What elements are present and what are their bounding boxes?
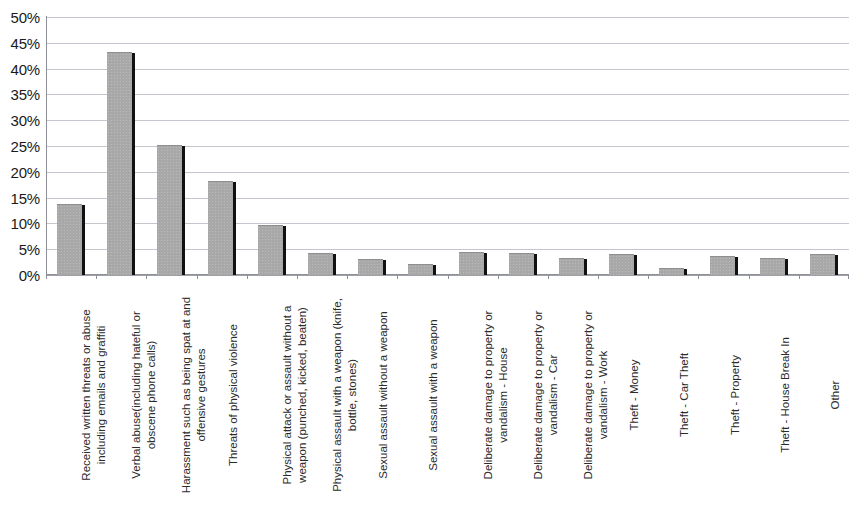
y-tick-label: 5% — [19, 241, 40, 258]
bar — [408, 264, 433, 275]
x-axis-label: Received written threats or abuseincludi… — [79, 279, 109, 511]
x-axis-label-line: vandalism - House — [496, 279, 511, 511]
y-tick-label: 40% — [11, 60, 40, 77]
x-axis-label-line: obscene phone calls) — [144, 279, 159, 511]
x-axis-label-line: Deliberate damage to property or — [531, 279, 546, 511]
x-axis-label: Deliberate damage to property orvandalis… — [481, 279, 511, 511]
plot-area — [46, 17, 849, 275]
bar — [107, 52, 132, 275]
x-axis-label: Physical attack or assault without aweap… — [280, 279, 310, 511]
bar-shadow — [785, 259, 788, 276]
y-tick-label: 25% — [11, 138, 40, 155]
x-axis-label-line: Physical attack or assault without a — [280, 279, 295, 511]
bar-shadow — [283, 226, 286, 275]
bar-shadow — [182, 146, 185, 275]
x-axis-label: Theft - Car Theft — [677, 279, 692, 511]
bar-shadow — [383, 260, 386, 275]
x-axis-labels: Received written threats or abuseincludi… — [46, 279, 849, 519]
y-tick-label: 30% — [11, 112, 40, 129]
x-axis-label: Deliberate damage to property orvandalis… — [581, 279, 611, 511]
x-axis-label: Theft - Property — [728, 279, 743, 511]
bar-shadow — [735, 257, 738, 275]
x-axis-label-line: Verbal abuse(including hateful or — [129, 279, 144, 511]
bar-shadow — [534, 254, 537, 275]
x-axis-label: Deliberate damage to property orvandalis… — [531, 279, 561, 511]
x-axis-label-line: vandalism - Work — [596, 279, 611, 511]
bar — [509, 253, 534, 275]
x-axis-label-line: Other — [828, 279, 843, 511]
bar — [57, 204, 82, 275]
x-axis-label-line: Theft - Money — [627, 279, 642, 511]
x-axis-label-line: Theft - House Break In — [778, 279, 793, 511]
bar — [258, 225, 283, 275]
x-axis-label-line: Deliberate damage to property or — [481, 279, 496, 511]
y-tick-label: 20% — [11, 163, 40, 180]
bar — [609, 254, 634, 275]
bar-chart: 50%45%40%35%30%25%20%15%10%5%0% Received… — [0, 0, 849, 519]
x-axis-label: Theft - House Break In — [778, 279, 793, 511]
x-axis-label-line: Sexual assault without a weapon — [376, 279, 391, 511]
x-axis-label-line: Threats of physical violence — [226, 279, 241, 511]
x-axis-label-line: Received written threats or abuse — [79, 279, 94, 511]
x-axis-label: Physical assault with a weapon (knife,bo… — [330, 279, 360, 511]
bar — [760, 258, 785, 276]
y-tick-label: 0% — [19, 267, 40, 284]
bar — [308, 253, 333, 275]
bar — [710, 256, 735, 275]
x-axis-label: Theft - Money — [627, 279, 642, 511]
bar — [459, 252, 484, 275]
bar-shadow — [132, 53, 135, 275]
bar-shadow — [835, 255, 838, 275]
bar — [810, 254, 835, 275]
x-axis-label: Sexual assault with a weapon — [426, 279, 441, 511]
bar-shadow — [484, 253, 487, 275]
y-tick-label: 45% — [11, 34, 40, 51]
x-axis-label: Harassment such as being spat at andoffe… — [179, 279, 209, 511]
bar — [358, 259, 383, 275]
bar-shadow — [634, 255, 637, 275]
x-axis-label: Verbal abuse(including hateful orobscene… — [129, 279, 159, 511]
x-axis-label-line: including emails and graffiti — [94, 279, 109, 511]
bars-layer — [46, 17, 849, 275]
x-axis-label: Threats of physical violence — [226, 279, 241, 511]
bar-shadow — [433, 265, 436, 275]
x-axis-label-line: bottle, stones) — [345, 279, 360, 511]
bar — [559, 258, 584, 276]
x-axis-label-line: Deliberate damage to property or — [581, 279, 596, 511]
y-tick-label: 50% — [11, 9, 40, 26]
bar-shadow — [684, 269, 687, 275]
bar-shadow — [584, 259, 587, 276]
x-axis-label-line: offensive gestures — [194, 279, 209, 511]
bar — [659, 268, 684, 275]
x-axis-label-line: Theft - Car Theft — [677, 279, 692, 511]
x-axis-label: Other — [828, 279, 843, 511]
bar-shadow — [82, 205, 85, 275]
x-axis-label-line: weapon (punched, kicked, beaten) — [295, 279, 310, 511]
x-axis-label-line: Harassment such as being spat at and — [179, 279, 194, 511]
x-axis-label-line: Theft - Property — [728, 279, 743, 511]
bar — [208, 181, 233, 275]
bar-shadow — [333, 254, 336, 275]
bar — [157, 145, 182, 275]
y-axis: 50%45%40%35%30%25%20%15%10%5%0% — [0, 0, 44, 290]
x-axis-label-line: Sexual assault with a weapon — [426, 279, 441, 511]
bar-shadow — [233, 182, 236, 275]
y-tick-label: 10% — [11, 215, 40, 232]
x-axis-label: Sexual assault without a weapon — [376, 279, 391, 511]
y-tick-label: 15% — [11, 189, 40, 206]
y-tick-label: 35% — [11, 86, 40, 103]
x-axis-label-line: Physical assault with a weapon (knife, — [330, 279, 345, 511]
x-axis-label-line: vandalism - Car — [546, 279, 561, 511]
